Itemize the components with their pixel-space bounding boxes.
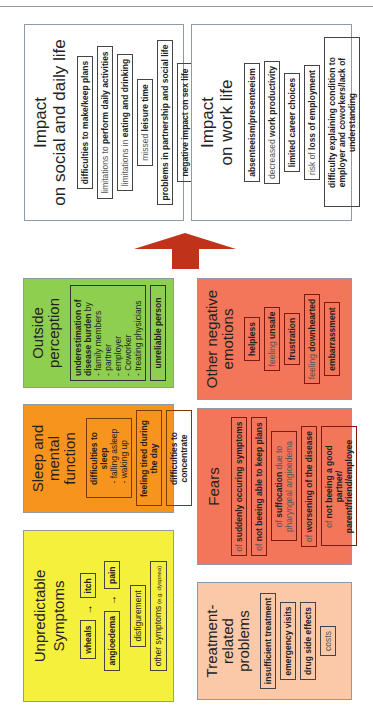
- wheals-box: wheals: [80, 620, 96, 658]
- emotion-item: frustration: [284, 313, 300, 366]
- fear-item: of worsening of the disease: [301, 426, 317, 547]
- sublist-item: treating physicians: [133, 290, 143, 376]
- fear-item: of suddenly occuring symptoms: [231, 417, 247, 557]
- symptoms-title: Unpredictable Symptoms: [30, 537, 68, 695]
- sublist-item: partner: [103, 290, 113, 376]
- emotion-item: embarrassment: [324, 302, 340, 375]
- outside-perception-item: unreliable person: [150, 285, 166, 381]
- outside-perception-sublist: family members partner employer Coworker…: [93, 290, 143, 376]
- other-symptoms-box: other symptoms (e.g. dyspnea): [150, 561, 167, 672]
- symptoms-row: angioedema → pain: [102, 561, 122, 670]
- right-arrow-icon: →: [107, 595, 118, 605]
- title-line: perception: [46, 298, 62, 368]
- fears-panel: Fears of suddenly occuring symptoms of n…: [197, 408, 352, 565]
- treatment-item: emergency visits: [280, 602, 296, 681]
- up-arrow-icon: [130, 229, 240, 269]
- symptoms-row: wheals → itch: [78, 573, 98, 658]
- title-line: Other negative: [204, 290, 220, 388]
- impact-work-item: difficulty explaining condition to emplo…: [324, 38, 360, 208]
- fear-item: of suffocation due to pharyngeal angioed…: [271, 432, 297, 542]
- wheals-itch-group: wheals → itch: [78, 573, 98, 658]
- treatment-panel: Treatment-related problems insufficient …: [197, 582, 352, 700]
- fears-title: Fears: [204, 467, 223, 505]
- emotion-item: helpless: [244, 317, 260, 361]
- impact-social-item: difficulties to make/keep plans: [77, 56, 93, 189]
- emotion-item: feeling downhearted: [304, 294, 320, 384]
- sleep-item: feeling tired during the day: [136, 411, 162, 507]
- impact-work-item: risk of loss of employment: [304, 65, 320, 180]
- sublist-item: Coworker: [123, 290, 133, 376]
- title-line: Outside: [30, 298, 46, 368]
- outside-perception-item: underestimation of disease burden by fam…: [70, 285, 146, 381]
- impact-work-item: absenteeism/presenteeism: [244, 63, 260, 182]
- impact-work-item: decreased work productivity: [264, 61, 280, 184]
- treatment-item: insufficient treatment: [260, 593, 276, 689]
- title-line: Sleep and mental: [30, 411, 62, 506]
- title-line: Treatment-related: [204, 589, 236, 693]
- title-line: on social and daily life: [50, 39, 69, 205]
- impact-social-item: limitations in eating and drinking: [117, 54, 133, 192]
- pain-box: pain: [104, 561, 120, 588]
- emotions-panel: Other negative emotions helpless feeling…: [197, 278, 352, 400]
- treatment-title: Treatment-related problems: [204, 589, 252, 693]
- sublist-item: waking up: [119, 424, 129, 484]
- treatment-item: costs: [320, 626, 336, 656]
- fear-item: of not beeing a good partner/ parent/fri…: [321, 427, 357, 547]
- itch-box: itch: [80, 573, 96, 598]
- impact-social-title: Impact on social and daily life: [31, 39, 69, 205]
- disfigurement-box: disfigurement: [130, 585, 146, 646]
- sleep-item: difficulties to concentrate: [166, 411, 192, 507]
- sleep-title: Sleep and mental function: [30, 411, 78, 506]
- treatment-item: drug side effects: [300, 602, 316, 680]
- diagram-canvas: Impact on social and daily life difficul…: [0, 0, 373, 719]
- sleep-item: difficulties to sleep falling asleep wak…: [86, 419, 132, 499]
- impact-social-item: limitations to perform daily activities: [97, 46, 113, 198]
- sublist-item: employer: [113, 290, 123, 376]
- sleep-panel: Sleep and mental function difficulties t…: [23, 404, 174, 513]
- title-line: function: [62, 411, 78, 506]
- fear-item: of not beeing able to keep plans: [251, 417, 267, 555]
- sublist-item: falling asleep: [109, 424, 119, 484]
- right-arrow-icon: →: [83, 604, 94, 614]
- outside-perception-panel: Outside perception underestimation of di…: [23, 278, 174, 388]
- outside-perception-title: Outside perception: [30, 298, 62, 368]
- impact-social-item: problems in partnership and social life: [157, 40, 173, 206]
- impact-work-panel: Impact on work life absenteeism/presente…: [191, 24, 352, 221]
- arrow-shape: [134, 233, 236, 269]
- title-line: Impact: [198, 80, 217, 166]
- title-line: problems: [236, 589, 252, 693]
- emotion-item: feeling unsafe: [264, 307, 280, 372]
- title-line: emotions: [220, 290, 236, 388]
- sleep-sublist: falling asleep waking up: [109, 424, 129, 494]
- impact-work-item: limited career choices: [284, 73, 300, 172]
- impact-work-title: Impact on work life: [198, 80, 236, 166]
- angioedema-box: angioedema: [104, 611, 120, 671]
- impact-social-item: missed leisure time: [137, 79, 153, 166]
- title-line: on work life: [217, 80, 236, 166]
- sublist-item: family members: [93, 290, 103, 376]
- title-line: Impact: [31, 39, 50, 205]
- impact-social-panel: Impact on social and daily life difficul…: [24, 24, 184, 221]
- emotions-title: Other negative emotions: [204, 290, 236, 388]
- symptoms-panel: Unpredictable Symptoms wheals → itch ang…: [23, 530, 174, 702]
